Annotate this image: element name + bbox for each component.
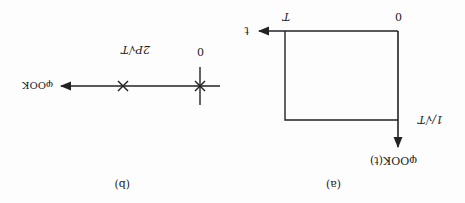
figure-canvas: φOOK(t) 1/√T 0 T t (a) [0, 0, 465, 203]
panel-a-y-label: φOOK(t) [370, 154, 417, 167]
panel-b-caption: (b) [114, 178, 130, 191]
panel-b-point-1-label: 2P√T [120, 43, 151, 56]
panel-a: φOOK(t) 1/√T 0 T t (a) [244, 10, 443, 191]
panel-b: 0 2P√T φOOK (b) [22, 43, 220, 191]
panel-a-x-label: t [244, 24, 249, 37]
panel-b-point-0-label: 0 [197, 45, 204, 58]
panel-a-caption: (a) [326, 178, 341, 191]
panel-a-pulse [285, 31, 398, 120]
panel-a-origin: 0 [395, 10, 402, 23]
figure: φOOK(t) 1/√T 0 T t (a) [0, 0, 465, 203]
panel-a-x-tick: T [281, 10, 290, 23]
panel-a-y-tick: 1/√T [416, 113, 443, 126]
panel-b-axis-label: φOOK [22, 80, 53, 91]
